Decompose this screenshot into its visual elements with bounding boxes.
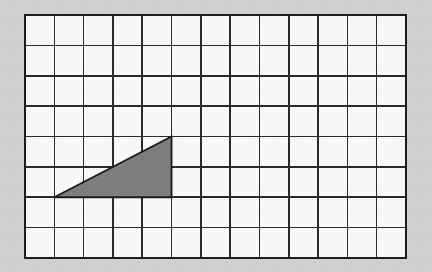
figure-root	[0, 0, 432, 272]
grid-figure	[0, 0, 432, 272]
